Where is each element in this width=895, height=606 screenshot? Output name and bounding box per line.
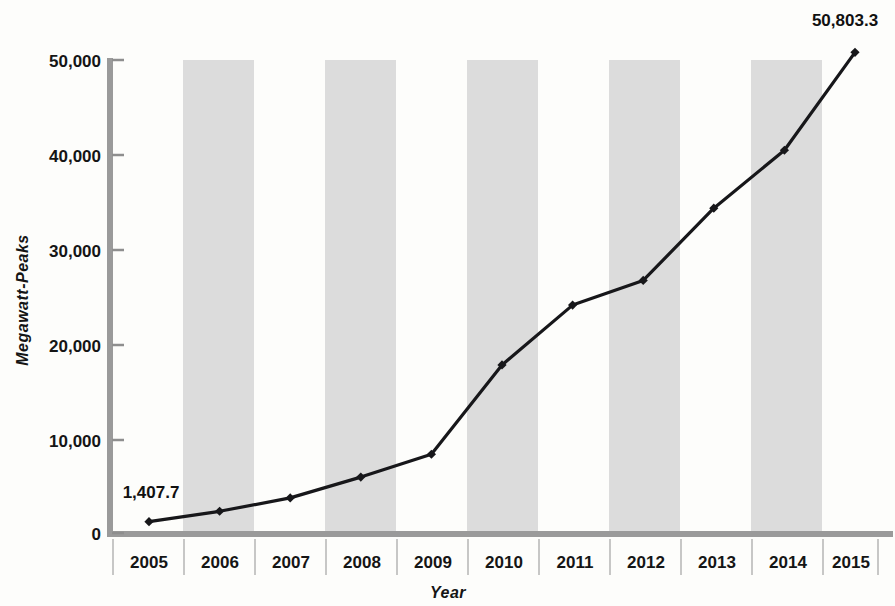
y-tick-marks bbox=[112, 60, 124, 533]
band-2014 bbox=[751, 60, 822, 535]
line-chart: 50,000 40,000 30,000 20,000 10,000 0 Meg… bbox=[0, 0, 895, 606]
band-2008 bbox=[325, 60, 396, 535]
band-2010 bbox=[467, 60, 538, 535]
x-tick-label-2011: 2011 bbox=[557, 553, 594, 572]
x-tick-label-2014: 2014 bbox=[769, 553, 807, 572]
y-tick-label-40000: 40,000 bbox=[49, 147, 101, 166]
y-tick-label-0: 0 bbox=[92, 525, 101, 544]
y-tick-labels: 50,000 40,000 30,000 20,000 10,000 0 bbox=[49, 52, 101, 544]
x-tick-label-2010: 2010 bbox=[485, 553, 523, 572]
band-2012 bbox=[609, 60, 680, 535]
y-axis-title: Megawatt-Peaks bbox=[14, 234, 31, 366]
x-axis-title: Year bbox=[430, 584, 466, 601]
y-tick-label-30000: 30,000 bbox=[49, 242, 101, 261]
x-tick-label-2008: 2008 bbox=[343, 553, 381, 572]
x-tick-labels: 2005 2006 2007 2008 2009 2010 2011 2012 … bbox=[130, 553, 870, 572]
x-tick-label-2005: 2005 bbox=[130, 553, 168, 572]
data-point-2007 bbox=[286, 493, 295, 502]
x-tick-label-2012: 2012 bbox=[627, 553, 665, 572]
y-tick-label-50000: 50,000 bbox=[49, 52, 101, 71]
band-2006 bbox=[183, 60, 254, 535]
y-tick-label-10000: 10,000 bbox=[49, 432, 101, 451]
x-tick-label-2006: 2006 bbox=[201, 553, 239, 572]
x-tick-label-2007: 2007 bbox=[272, 553, 310, 572]
background-bands bbox=[183, 60, 822, 535]
y-tick-label-20000: 20,000 bbox=[49, 337, 101, 356]
annotation-last-point: 50,803.3 bbox=[812, 11, 878, 30]
x-tick-label-2015: 2015 bbox=[832, 553, 870, 572]
x-tick-label-2013: 2013 bbox=[698, 553, 736, 572]
x-tick-label-2009: 2009 bbox=[414, 553, 452, 572]
annotation-first-point: 1,407.7 bbox=[123, 483, 180, 502]
chart-container: 50,000 40,000 30,000 20,000 10,000 0 Meg… bbox=[0, 0, 895, 606]
data-point-2005 bbox=[144, 517, 153, 526]
